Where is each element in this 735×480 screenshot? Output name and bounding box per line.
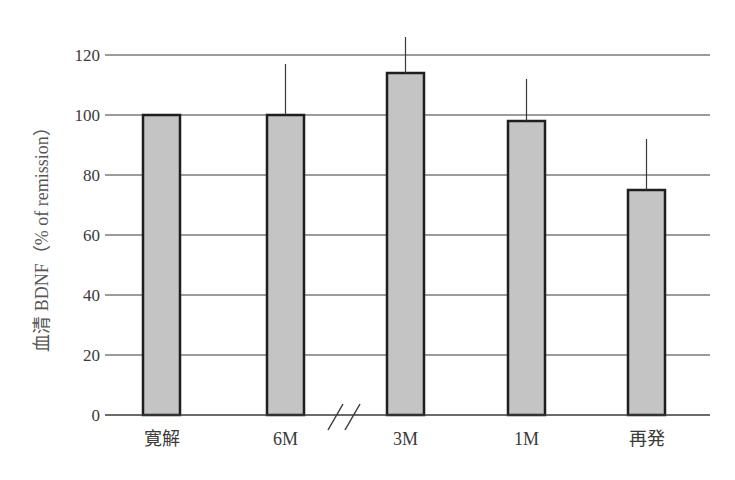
- bar-0: [143, 115, 180, 415]
- bars: [143, 73, 665, 415]
- bar-2: [387, 73, 424, 415]
- bar-4: [628, 190, 665, 415]
- y-axis-ticks: 020406080100120: [75, 46, 101, 425]
- x-category-label: 再発: [629, 429, 665, 449]
- bar-3: [508, 121, 545, 415]
- x-category-label: 6M: [273, 429, 298, 449]
- axis-break-mark: [328, 404, 360, 430]
- x-category-label: 寛解: [144, 429, 180, 449]
- y-tick-label: 0: [92, 406, 101, 425]
- bar-1: [267, 115, 304, 415]
- bar-chart: 020406080100120 寛解6M3M1M再発 血清 BDNF（% of …: [0, 0, 735, 480]
- y-tick-label: 80: [83, 166, 100, 185]
- x-axis-labels: 寛解6M3M1M再発: [144, 429, 665, 449]
- y-tick-label: 40: [83, 286, 100, 305]
- y-tick-label: 100: [75, 106, 101, 125]
- y-tick-label: 120: [75, 46, 101, 65]
- y-tick-label: 60: [83, 226, 100, 245]
- y-tick-label: 20: [83, 346, 100, 365]
- y-axis-label: 血清 BDNF（% of remission）: [32, 118, 52, 352]
- x-category-label: 1M: [514, 429, 539, 449]
- error-bars: [286, 37, 647, 190]
- x-category-label: 3M: [393, 429, 418, 449]
